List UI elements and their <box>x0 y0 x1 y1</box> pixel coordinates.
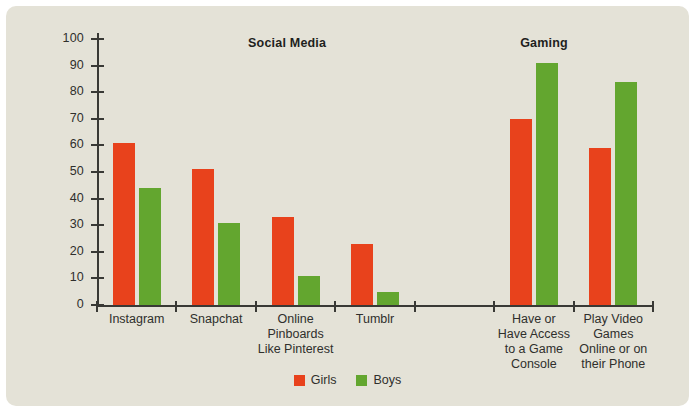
x-axis-label: Tumblr <box>335 312 414 327</box>
x-axis-label-line: Have Access <box>494 327 573 342</box>
x-axis-label-line: Pinboards <box>256 327 335 342</box>
chart-legend: GirlsBoys <box>6 373 689 387</box>
x-axis-label-line: Snapchat <box>176 312 255 327</box>
x-axis-label-line: Games <box>574 327 653 342</box>
bar-boys-6 <box>615 82 637 305</box>
chart-card: 0102030405060708090100 InstagramSnapchat… <box>6 6 689 406</box>
x-axis-line <box>97 305 653 307</box>
bar-girls-0 <box>113 143 135 305</box>
x-axis-label-line: Tumblr <box>335 312 414 327</box>
bar-girls-1 <box>192 169 214 305</box>
section-title-social-media: Social Media <box>207 36 367 50</box>
bar-girls-6 <box>589 148 611 305</box>
bar-girls-5 <box>510 119 532 305</box>
x-axis-label: Have orHave Accessto a GameConsole <box>494 312 573 372</box>
x-axis-label: OnlinePinboardsLike Pinterest <box>256 312 335 357</box>
x-axis-label: Play VideoGamesOnline or ontheir Phone <box>574 312 653 372</box>
legend-label: Girls <box>311 373 337 387</box>
legend-swatch-icon <box>356 375 367 386</box>
bar-chart: 0102030405060708090100 InstagramSnapchat… <box>6 6 689 406</box>
bar-girls-3 <box>351 244 373 305</box>
bar-boys-2 <box>298 276 320 305</box>
bar-boys-1 <box>218 223 240 305</box>
bar-boys-3 <box>377 292 399 305</box>
bar-boys-5 <box>536 63 558 305</box>
bars-layer <box>6 39 689 305</box>
legend-swatch-icon <box>294 375 305 386</box>
bar-girls-2 <box>272 217 294 305</box>
x-axis-label-line: to a Game <box>494 342 573 357</box>
x-axis-label-line: Have or <box>494 312 573 327</box>
bar-boys-0 <box>139 188 161 305</box>
x-axis-label: Instagram <box>97 312 176 327</box>
legend-label: Boys <box>373 373 401 387</box>
x-axis-label-line: Online or on <box>574 342 653 357</box>
legend-item-boys[interactable]: Boys <box>356 373 401 387</box>
x-axis-label-line: Play Video <box>574 312 653 327</box>
x-axis-label-line: Instagram <box>97 312 176 327</box>
x-axis-label-line: their Phone <box>574 357 653 372</box>
legend-item-girls[interactable]: Girls <box>294 373 337 387</box>
section-title-gaming: Gaming <box>464 36 624 50</box>
x-axis-label-line: Console <box>494 357 573 372</box>
x-axis-label: Snapchat <box>176 312 255 327</box>
x-axis-label-line: Like Pinterest <box>256 342 335 357</box>
x-axis-label-line: Online <box>256 312 335 327</box>
